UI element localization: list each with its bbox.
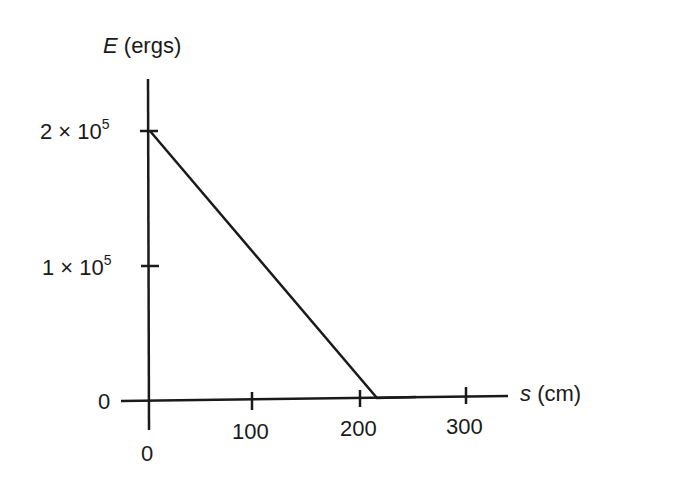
y-tick-label-0: 0 <box>98 391 110 413</box>
y-axis-var: E <box>103 33 118 58</box>
y-tick-2e5-mantissa: 2 × 10 <box>40 119 102 144</box>
x-axis-var: s <box>520 381 531 406</box>
data-line <box>150 131 416 398</box>
y-tick-label-2e5: 2 × 105 <box>40 121 110 143</box>
y-tick-2e5-exponent: 5 <box>102 116 110 132</box>
x-tick-label-0: 0 <box>141 443 153 465</box>
y-axis-unit: (ergs) <box>124 33 181 58</box>
y-tick-1e5-mantissa: 1 × 10 <box>42 255 104 280</box>
x-tick-label-100: 100 <box>232 421 269 443</box>
y-tick-1e5-exponent: 5 <box>104 252 112 268</box>
y-tick-label-1e5: 1 × 105 <box>42 257 112 279</box>
x-tick-label-200: 200 <box>340 418 377 440</box>
x-axis-label: s (cm) <box>520 383 581 405</box>
y-axis-label: E (ergs) <box>103 35 181 57</box>
x-axis-unit: (cm) <box>537 381 581 406</box>
x-axis <box>121 396 508 401</box>
x-tick-label-300: 300 <box>446 416 483 438</box>
